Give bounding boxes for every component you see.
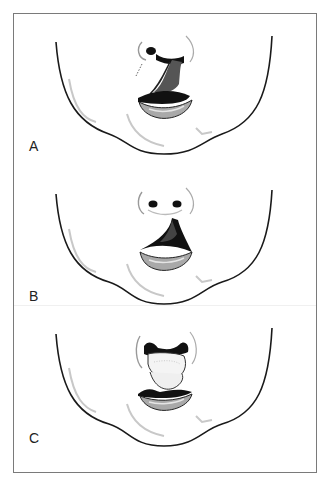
panel-label-c: C [29, 430, 39, 446]
panel-a: A [14, 14, 316, 164]
jaw-illustration-c [14, 306, 316, 472]
panel-label-a: A [29, 138, 38, 154]
panel-c: C [14, 306, 316, 472]
jaw-illustration-b [14, 164, 316, 306]
panel-b: B [14, 164, 316, 306]
figure-frame: A B [13, 13, 317, 473]
jaw-illustration-a [14, 14, 316, 164]
panel-label-b: B [29, 288, 38, 304]
